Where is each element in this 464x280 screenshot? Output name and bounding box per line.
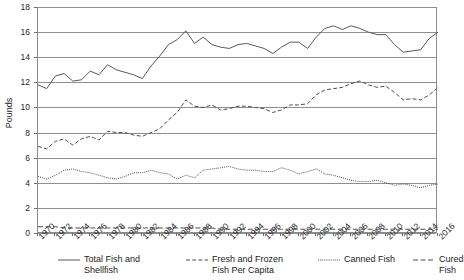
- legend-label: Fresh and Frozen Fish Per Capita: [212, 254, 283, 275]
- y-axis-tick-label: 2: [8, 204, 30, 213]
- legend-item[interactable]: Cured Fish: [413, 254, 464, 275]
- legend-line-swatch: [318, 258, 340, 267]
- legend-line-swatch: [58, 258, 80, 267]
- legend-line-swatch: [413, 258, 435, 267]
- y-axis-labels: 181614121086420: [8, 0, 30, 280]
- x-axis-tick-label: 2016: [437, 222, 457, 242]
- y-axis-tick-label: 16: [8, 28, 30, 37]
- legend-label: Canned Fish: [344, 254, 395, 265]
- y-axis-tick-label: 8: [8, 129, 30, 138]
- y-axis-tick-label: 6: [8, 154, 30, 163]
- y-axis-tick-label: 14: [8, 53, 30, 62]
- legend-item[interactable]: Canned Fish: [318, 254, 395, 265]
- legend-item[interactable]: Total Fish and Shellfish: [58, 254, 140, 275]
- plot-area: [37, 7, 437, 233]
- legend-label: Cured Fish: [439, 254, 464, 275]
- legend-item[interactable]: Fresh and Frozen Fish Per Capita: [186, 254, 283, 275]
- chart-legend: Total Fish and ShellfishFresh and Frozen…: [58, 254, 438, 278]
- legend-line-swatch: [186, 258, 208, 267]
- series-line: [38, 81, 438, 149]
- y-axis-tick-label: 10: [8, 103, 30, 112]
- series-line: [38, 26, 438, 89]
- legend-label: Total Fish and Shellfish: [84, 254, 140, 275]
- y-axis-tick-label: 4: [8, 179, 30, 188]
- y-axis-tick-label: 12: [8, 78, 30, 87]
- series-line: [38, 166, 438, 187]
- series-lines: [38, 7, 438, 233]
- y-axis-tick-label: 18: [8, 3, 30, 12]
- y-axis-tick-label: 0: [8, 229, 30, 238]
